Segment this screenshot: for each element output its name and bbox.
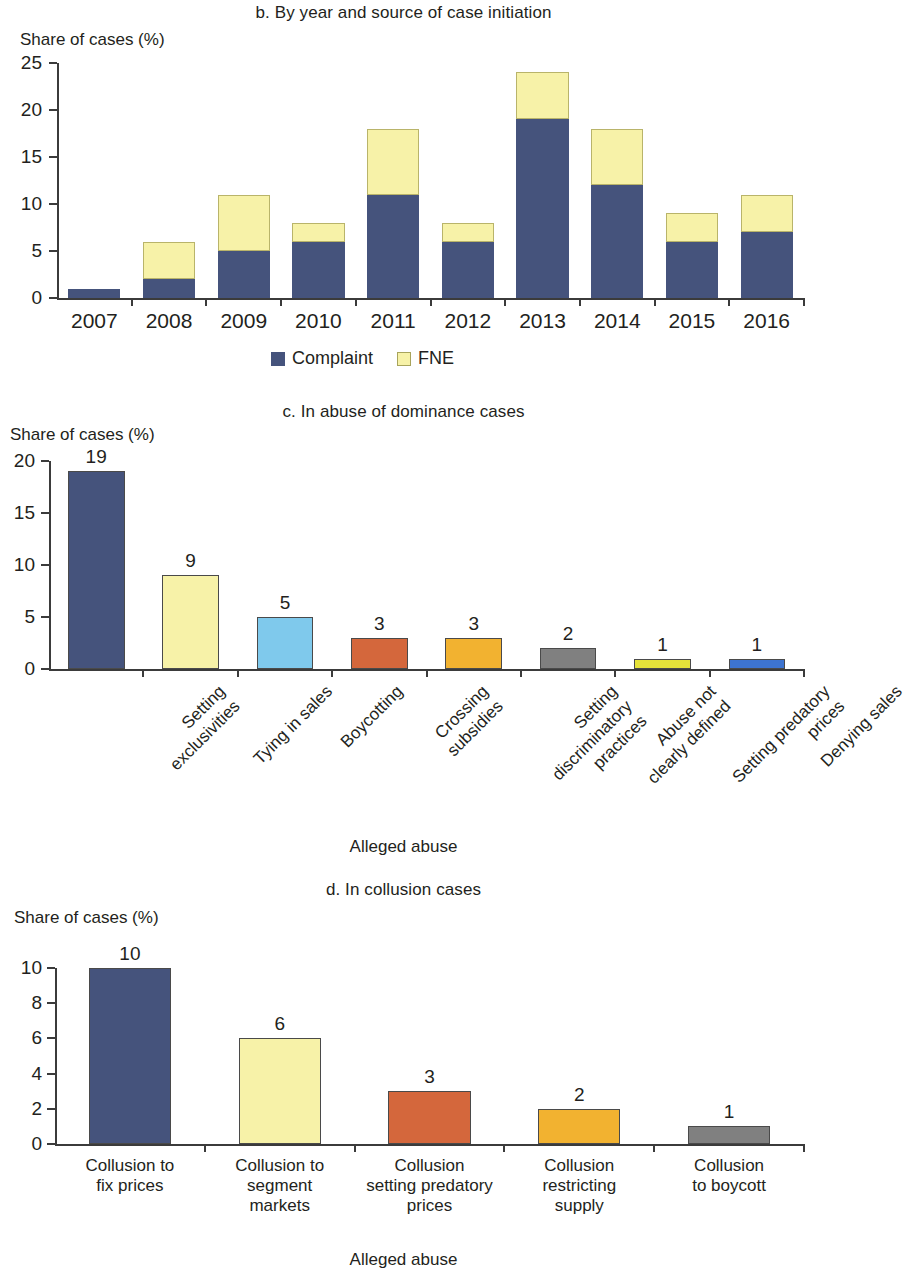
y-tick [47,967,55,969]
panel-c-plot-area: 05101520 199533211 Setting exclusivities… [0,400,807,865]
y-tick [49,297,57,299]
y-tick [49,203,57,205]
panel-d-y-axis-line [55,968,57,1146]
y-tick [41,512,49,514]
bar-value-label: 9 [161,551,221,570]
y-tick-label: 5 [2,241,42,260]
x-tick-label: Collusion to boycott [654,1156,804,1196]
bar-value-label: 2 [538,624,598,643]
x-tick [280,298,282,306]
bar-complaint [218,251,270,298]
y-tick-label: 10 [2,958,42,977]
bar-fne [367,129,419,195]
y-tick-label: 0 [0,659,35,678]
legend-label-complaint: Complaint [292,348,373,369]
x-tick-label: Collusion to fix prices [55,1156,205,1196]
x-tick-label-rotated: Abuse not clearly defined [628,681,735,788]
y-tick [41,668,49,670]
x-tick [803,669,805,677]
y-tick [47,1073,55,1075]
y-tick-label: 2 [2,1099,42,1118]
bar [540,648,597,669]
x-tick-label: Collusion setting predatory prices [355,1156,505,1216]
y-tick-label: 25 [2,53,42,72]
bar-value-label: 3 [400,1067,460,1086]
x-tick-label: Collusion to segment markets [205,1156,355,1216]
bar [239,1038,321,1144]
y-tick [41,616,49,618]
x-tick [803,1144,805,1152]
bar-value-label: 6 [250,1014,310,1033]
x-tick [653,1144,655,1152]
x-tick [205,298,207,306]
x-tick [614,669,616,677]
x-tick-label-year: 2016 [722,310,812,331]
bar-fne [516,72,568,119]
x-tick-label-rotated: Setting discriminatory practices [532,681,651,800]
y-tick [49,156,57,158]
x-tick [142,669,144,677]
y-tick-label: 10 [2,194,42,213]
bar [538,1109,620,1144]
bar-fne [143,242,195,280]
bar-value-label: 1 [632,635,692,654]
x-tick [803,298,805,306]
y-tick-label: 20 [0,451,35,470]
y-tick-label: 0 [2,1134,42,1153]
y-tick-label: 5 [0,607,35,626]
legend-swatch-complaint [271,352,285,366]
bar-fne [218,195,270,251]
y-tick-label: 8 [2,993,42,1012]
panel-b-legend: Complaint FNE [271,348,454,369]
x-tick [520,669,522,677]
bar-fne [741,195,793,233]
x-tick [728,298,730,306]
panel-d-x-axis-line [55,1144,804,1146]
bar-complaint [741,232,793,298]
bar-value-label: 1 [699,1102,759,1121]
bar-fne [591,129,643,185]
bar [729,659,786,669]
bar-complaint [666,242,718,298]
y-tick [47,1002,55,1004]
panel-d-plot-area: 0246810 106321 Collusion to fix pricesCo… [0,880,807,1285]
y-tick [47,1037,55,1039]
x-tick [331,669,333,677]
y-tick [49,62,57,64]
bar-value-label: 19 [66,447,126,466]
panel-d-chart: d. In collusion cases Share of cases (%)… [0,880,807,1285]
bar-value-label: 2 [549,1085,609,1104]
legend-label-fne: FNE [418,348,454,369]
x-tick-label-rotated: Boycotting [336,681,407,752]
panel-c-x-axis-label: Alleged abuse [0,837,807,857]
y-tick [49,109,57,111]
x-tick [430,298,432,306]
bar-fne [292,223,344,242]
bar-complaint [292,242,344,298]
bar-value-label: 3 [444,614,504,633]
bar-complaint [367,195,419,298]
x-tick-label-rotated: Crossing subsidies [428,681,508,761]
x-tick [579,298,581,306]
x-tick [503,1144,505,1152]
x-tick [504,298,506,306]
bar-complaint [591,185,643,298]
bar [445,638,502,669]
panel-b-chart: b. By year and source of case initiation… [0,0,807,375]
bar [688,1126,770,1144]
bar-fne [442,223,494,242]
y-tick [47,1108,55,1110]
y-tick [49,250,57,252]
y-tick-label: 0 [2,288,42,307]
bar [634,659,691,669]
y-tick-label: 10 [0,555,35,574]
x-tick [237,669,239,677]
bar-complaint [442,242,494,298]
panel-b-plot-area: 0510152025 20072008200920102011201220132… [0,0,807,375]
y-tick-label: 15 [0,503,35,522]
y-tick-label: 20 [2,100,42,119]
x-tick [355,298,357,306]
bar [89,968,171,1144]
x-tick-label: Collusion restricting supply [504,1156,654,1216]
bar-value-label: 5 [255,593,315,612]
